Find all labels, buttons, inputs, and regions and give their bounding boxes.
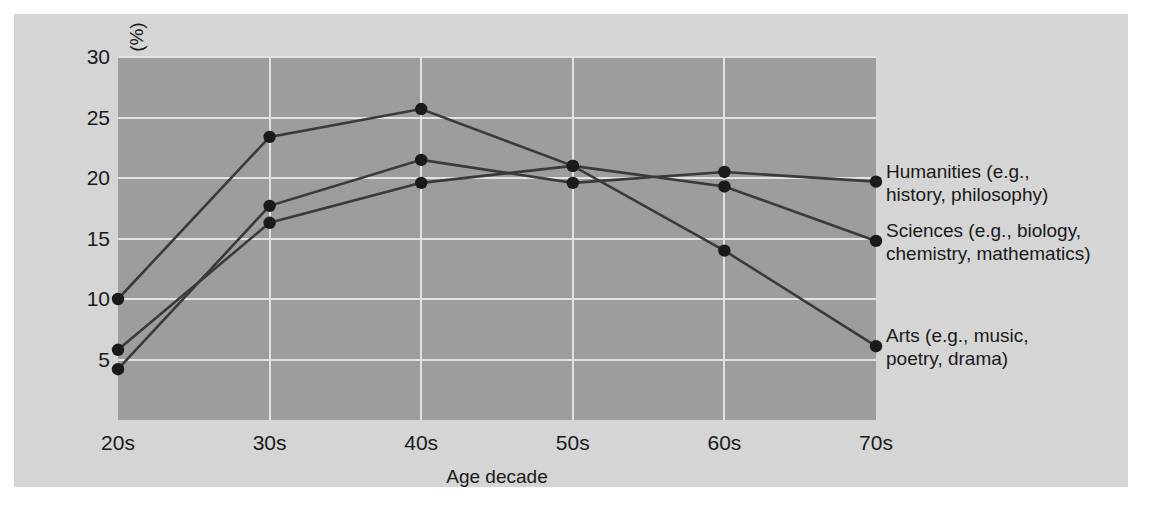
y-axis-tick-label: 20 (64, 167, 110, 188)
data-point-marker (263, 217, 275, 229)
data-point-marker (112, 344, 124, 356)
y-axis-tick-label: 5 (64, 349, 110, 370)
data-point-marker (567, 177, 579, 189)
data-point-marker (718, 244, 730, 256)
series-line-humanities (118, 160, 876, 369)
y-axis-tick-labels: 30252015105 (48, 57, 110, 420)
series-line-arts (118, 109, 876, 346)
data-point-marker (112, 363, 124, 375)
data-point-marker (263, 200, 275, 212)
series-label-line-2: chemistry, mathematics) (886, 242, 1090, 265)
data-point-marker (567, 160, 579, 172)
x-axis-tick-label: 30s (225, 432, 315, 453)
data-point-marker (870, 235, 882, 247)
data-point-marker (870, 175, 882, 187)
x-axis-tick-label: 60s (679, 432, 769, 453)
data-point-marker (870, 340, 882, 352)
x-axis-tick-labels: 20s30s40s50s60s70s (118, 432, 876, 466)
x-axis-tick-label: 20s (73, 432, 163, 453)
series-label-line-2: history, philosophy) (886, 183, 1048, 206)
series-label-line-1: Humanities (e.g., (886, 160, 1048, 183)
data-point-marker (263, 131, 275, 143)
y-axis-tick-label: 10 (64, 288, 110, 309)
data-point-marker (718, 166, 730, 178)
y-axis-tick-label: 15 (64, 228, 110, 249)
series-label-arts: Arts (e.g., music,poetry, drama) (886, 324, 1029, 370)
data-point-marker (718, 180, 730, 192)
data-point-marker (415, 154, 427, 166)
series-label-line-1: Sciences (e.g., biology, (886, 219, 1090, 242)
series-lines-and-markers (118, 57, 876, 420)
figure-root: Works completed in each decade (%) 30252… (0, 0, 1157, 524)
data-point-marker (415, 177, 427, 189)
y-axis-tick-label: 30 (64, 46, 110, 67)
data-point-marker (112, 293, 124, 305)
series-label-line-2: poetry, drama) (886, 347, 1029, 370)
x-axis-tick-label: 50s (528, 432, 618, 453)
x-axis-title: Age decade (118, 466, 876, 488)
series-label-humanities: Humanities (e.g.,history, philosophy) (886, 160, 1048, 206)
chart-card: Works completed in each decade (%) 30252… (14, 14, 1128, 487)
x-axis-tick-label: 70s (831, 432, 921, 453)
series-line-sciences (118, 166, 876, 350)
plot-area (118, 57, 876, 420)
y-axis-tick-label: 25 (64, 107, 110, 128)
x-axis-tick-label: 40s (376, 432, 466, 453)
series-label-sciences: Sciences (e.g., biology,chemistry, mathe… (886, 219, 1090, 265)
data-point-marker (415, 103, 427, 115)
series-label-line-1: Arts (e.g., music, (886, 324, 1029, 347)
